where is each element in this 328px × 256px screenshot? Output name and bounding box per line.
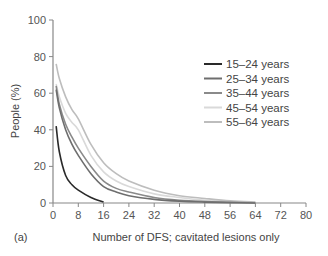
x-tick-label: 8	[75, 209, 81, 221]
line-chart: 020406080100 08162432404856647280 15–24 …	[0, 0, 328, 256]
x-tick-label: 56	[224, 209, 236, 221]
legend-label: 25–34 years	[226, 73, 290, 85]
x-tick-label: 32	[148, 209, 160, 221]
legend-label: 45–54 years	[226, 102, 290, 114]
y-axis: 020406080100	[28, 14, 53, 209]
y-tick-label: 0	[40, 197, 46, 209]
legend: 15–24 years25–34 years35–44 years45–54 y…	[204, 58, 290, 128]
x-tick-label: 80	[300, 209, 312, 221]
y-tick-label: 20	[34, 160, 46, 172]
x-axis: 08162432404856647280	[50, 203, 312, 221]
y-tick-label: 60	[34, 87, 46, 99]
x-tick-label: 72	[275, 209, 287, 221]
y-axis-label: People (%)	[9, 84, 21, 138]
y-tick-label: 100	[28, 14, 46, 26]
legend-label: 15–24 years	[226, 58, 290, 70]
x-tick-label: 0	[50, 209, 56, 221]
x-tick-label: 24	[123, 209, 135, 221]
x-tick-label: 40	[173, 209, 185, 221]
panel-label: (a)	[14, 231, 27, 243]
x-tick-label: 64	[249, 209, 261, 221]
legend-label: 35–44 years	[226, 87, 290, 99]
chart-series	[56, 64, 255, 203]
x-tick-label: 16	[97, 209, 109, 221]
legend-label: 55–64 years	[226, 116, 290, 128]
y-tick-label: 40	[34, 124, 46, 136]
x-axis-label: Number of DFS; cavitated lesions only	[92, 231, 280, 243]
series-line	[56, 64, 255, 202]
x-tick-label: 48	[199, 209, 211, 221]
y-tick-label: 80	[34, 51, 46, 63]
